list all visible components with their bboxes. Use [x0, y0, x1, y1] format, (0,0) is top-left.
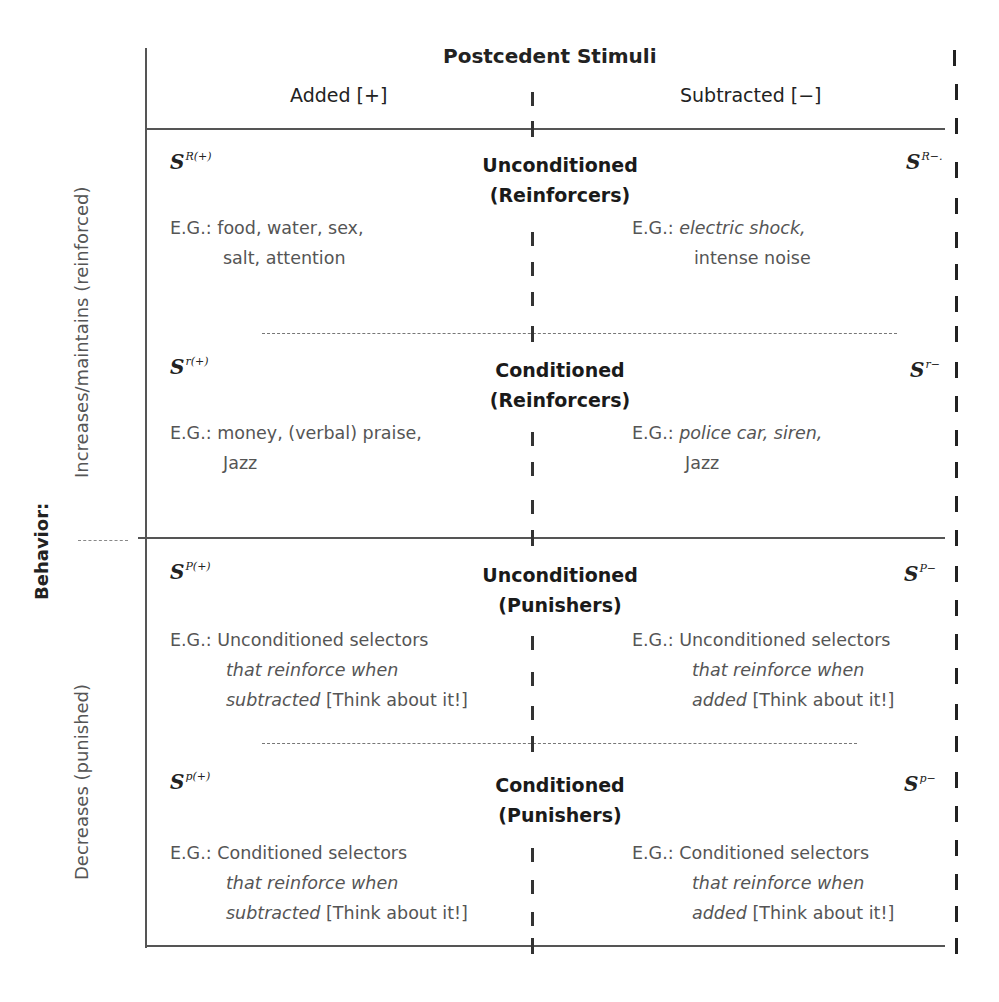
symbol-sp-plus: SP(+) [170, 560, 211, 584]
symbol-sr-lower-minus: Sr− [910, 358, 940, 382]
category-title: Conditioned (Punishers) [410, 770, 710, 830]
behavior-divider-dash [78, 540, 128, 541]
middle-divider [138, 537, 945, 539]
example-added: E.G.: food, water, sex, salt, attention [170, 213, 364, 273]
category-title: Conditioned (Reinforcers) [410, 355, 710, 415]
symbol-sr-minus: SR−. [906, 150, 942, 174]
row-label-decreases: Decreases (punished) [71, 684, 92, 880]
bottom-border [145, 945, 945, 947]
example-subtracted: E.G.: Conditioned selectors that reinfor… [632, 838, 894, 928]
row-label-increases: Increases/maintains (reinforced) [71, 187, 92, 478]
row-label-behavior: Behavior: [31, 503, 52, 600]
example-subtracted: E.G.: police car, siren, Jazz [632, 418, 822, 478]
reinforcer-separator [262, 333, 897, 334]
category-title: Unconditioned (Reinforcers) [410, 150, 710, 210]
punisher-separator [262, 743, 857, 744]
diagram-title: Postcedent Stimuli [443, 44, 657, 68]
header-underline [145, 128, 945, 130]
column-header-added: Added [+] [290, 84, 387, 106]
example-subtracted: E.G.: electric shock, intense noise [632, 213, 811, 273]
symbol-sp-lower-minus: Sp− [904, 772, 936, 796]
column-header-subtracted: Subtracted [−] [680, 84, 822, 106]
symbol-sp-minus: SP− [904, 562, 936, 586]
symbol-sp-lower-plus: Sp(+) [170, 770, 210, 794]
category-title: Unconditioned (Punishers) [410, 560, 710, 620]
symbol-sr-plus: SR(+) [170, 150, 212, 174]
left-border [145, 48, 147, 948]
example-added: E.G.: money, (verbal) praise, Jazz [170, 418, 422, 478]
symbol-sr-lower-plus: Sr(+) [170, 355, 209, 379]
example-subtracted: E.G.: Unconditioned selectors that reinf… [632, 625, 894, 715]
example-added: E.G.: Unconditioned selectors that reinf… [170, 625, 468, 715]
example-added: E.G.: Conditioned selectors that reinfor… [170, 838, 468, 928]
